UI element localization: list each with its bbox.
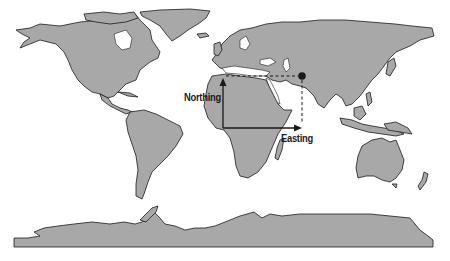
world-map: Northing Easting	[0, 0, 450, 261]
philippines	[366, 92, 372, 106]
continent-africa	[204, 74, 292, 178]
map-canvas	[0, 0, 450, 261]
central-america	[100, 94, 132, 114]
continent-antarctica	[14, 212, 433, 247]
cuba	[118, 92, 138, 97]
northing-label: Northing	[184, 91, 221, 103]
continent-north-america	[16, 14, 160, 98]
easting-label: Easting	[281, 132, 313, 144]
easting-arrowhead-icon	[294, 125, 302, 132]
borneo	[354, 106, 366, 120]
iceland	[197, 33, 209, 38]
location-point-marker-icon	[298, 72, 306, 80]
continent-australia	[356, 138, 404, 182]
new-zealand	[418, 172, 428, 190]
continent-south-america	[126, 110, 183, 199]
tasmania	[392, 184, 397, 188]
